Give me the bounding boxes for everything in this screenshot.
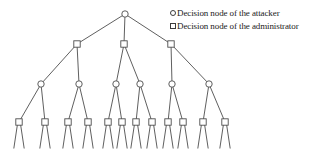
attacker-decision-node xyxy=(113,81,119,87)
administrator-decision-node xyxy=(74,41,80,47)
leaf-branch-line xyxy=(83,124,87,149)
administrator-decision-node xyxy=(119,119,125,125)
leaf-branch-line xyxy=(70,124,74,149)
leaf-branch-line xyxy=(147,124,151,149)
tree-edge xyxy=(171,44,172,84)
attack-defense-tree-figure: Decision node of the attacker Decision n… xyxy=(0,0,316,154)
attacker-node-icon xyxy=(170,10,176,16)
attacker-decision-node xyxy=(38,81,44,87)
leaf-branch-line xyxy=(198,124,202,149)
administrator-decision-node xyxy=(65,119,71,125)
administrator-decision-node xyxy=(121,41,127,47)
tree-edge xyxy=(41,44,77,84)
attacker-decision-node xyxy=(169,81,175,87)
legend: Decision node of the attacker Decision n… xyxy=(170,7,299,32)
attacker-decision-node xyxy=(122,11,128,17)
legend-item-administrator: Decision node of the administrator xyxy=(170,20,299,32)
tree-edge xyxy=(77,44,79,84)
leaf-branch-line xyxy=(227,124,231,149)
leaf-branch-line xyxy=(63,124,67,149)
tree-edge xyxy=(116,44,124,84)
leaf-branch-line xyxy=(103,124,107,149)
administrator-decision-node xyxy=(149,119,155,125)
tree-edge xyxy=(116,84,122,122)
attacker-decision-node xyxy=(137,81,143,87)
leaf-branch-line xyxy=(170,124,174,149)
tree-edge xyxy=(125,14,171,44)
administrator-decision-node xyxy=(105,119,111,125)
leaf-branch-line xyxy=(138,124,142,149)
administrator-decision-node xyxy=(133,119,139,125)
administrator-decision-node xyxy=(165,119,171,125)
leaf-branch-line xyxy=(205,124,209,149)
leaf-branch-line xyxy=(124,124,128,149)
tree-edge xyxy=(79,84,88,122)
tree-edge xyxy=(108,84,116,122)
leaf-branch-line xyxy=(21,124,25,149)
leaf-branch-line xyxy=(47,124,51,149)
tree-edge xyxy=(209,84,225,122)
leaf-branch-line xyxy=(110,124,114,149)
administrator-decision-node xyxy=(222,119,228,125)
leaf-branch-line xyxy=(163,124,167,149)
administrator-decision-node xyxy=(200,119,206,125)
leaf-branch-line xyxy=(90,124,94,149)
administrator-decision-node xyxy=(180,119,186,125)
tree-edge xyxy=(203,84,209,122)
leaf-branch-line xyxy=(117,124,121,149)
legend-label-administrator: Decision node of the administrator xyxy=(177,21,299,31)
legend-label-attacker: Decision node of the attacker xyxy=(177,8,280,18)
legend-item-attacker: Decision node of the attacker xyxy=(170,7,299,19)
leaf-branch-line xyxy=(185,124,189,149)
tree-edge xyxy=(19,84,41,122)
tree-edge xyxy=(171,44,209,84)
tree-edge xyxy=(124,14,125,44)
administrator-node-icon xyxy=(170,23,176,29)
tree-edge xyxy=(172,84,183,122)
administrator-decision-node xyxy=(42,119,48,125)
leaf-branch-line xyxy=(131,124,135,149)
tree-edge xyxy=(168,84,172,122)
tree-edge xyxy=(77,14,125,44)
leaf-branch-line xyxy=(154,124,158,149)
leaf-branch-line xyxy=(220,124,224,149)
administrator-decision-node xyxy=(16,119,22,125)
tree-edge xyxy=(136,84,140,122)
leaf-branch-line xyxy=(178,124,182,149)
tree-edge xyxy=(140,84,152,122)
leaf-branch-line xyxy=(40,124,44,149)
tree-edge xyxy=(68,84,79,122)
tree-edge xyxy=(124,44,140,84)
administrator-decision-node xyxy=(85,119,91,125)
leaf-branch-line xyxy=(14,124,18,149)
attacker-decision-node xyxy=(206,81,212,87)
administrator-decision-node xyxy=(168,41,174,47)
tree-edge xyxy=(41,84,45,122)
attacker-decision-node xyxy=(76,81,82,87)
